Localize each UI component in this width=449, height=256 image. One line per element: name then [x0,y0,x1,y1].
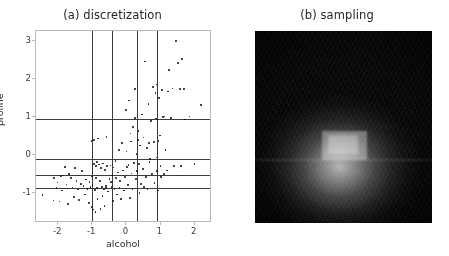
panel-a-title: (a) discretization [0,8,225,22]
scatter-point [126,151,128,153]
scatter-point [140,183,142,185]
scatter-point [143,137,145,139]
scatter-point [103,189,105,191]
scatter-point [189,116,191,118]
scatter-point [133,162,135,164]
scatter-point [120,198,122,200]
scatter-point [130,133,132,135]
scatter-point [112,200,114,202]
scatter-point [100,208,102,210]
scatter-point [137,139,139,141]
scatter-point [158,97,160,99]
scatter-point [42,194,44,196]
scatter-point [96,187,98,189]
scatter-point [81,170,83,172]
scatter-point [99,180,101,182]
scatter-point [154,182,156,184]
figure-canvas: (a) discretization -2-1012 -10123 alcoho… [0,0,449,256]
scatter-point [126,166,128,168]
panel-a-axes [35,30,211,222]
panel-b-sampling: (b) sampling [225,0,449,256]
panel-a-ylabel: proline [0,93,5,126]
scatter-point [141,114,143,116]
scatter-point [113,167,115,169]
scatter-point [158,140,160,142]
scatter-point [77,189,79,191]
scatter-point [129,197,131,199]
scatter-point [53,177,55,179]
scatter-point [85,179,87,181]
x-tick [91,222,92,225]
scatter-point [106,136,108,138]
scatter-point [177,62,179,64]
scatter-point [128,164,130,166]
discretization-vline-1 [112,31,113,221]
scatter-point [146,147,148,149]
x-tick-label: -1 [87,226,95,236]
scatter-point [149,161,151,163]
scatter-point [159,135,161,137]
scatter-point [170,117,172,119]
scatter-point [161,89,163,91]
scatter-point [105,185,107,187]
y-tick-label: -1 [23,187,31,197]
scatter-point [124,176,126,178]
y-tick-label: 2 [26,73,31,83]
scatter-point [114,189,116,191]
scatter-point [84,194,86,196]
scatter-point [64,166,66,168]
scatter-point [97,138,99,140]
y-tick-label: 3 [26,35,31,45]
y-tick [32,40,35,41]
scatter-point [67,203,69,205]
scatter-point [179,88,181,90]
scatter-point [97,198,99,200]
scatter-point [107,191,109,193]
image-vignette [255,31,432,223]
scatter-point [138,163,140,165]
scatter-point [134,88,136,90]
scatter-point [53,200,55,202]
scatter-point [94,189,96,191]
panel-a-xlabel: alcohol [35,238,211,249]
scatter-point [167,91,169,93]
x-tick [125,222,126,225]
scatter-point [142,168,144,170]
x-tick [194,222,195,225]
x-tick-label: -2 [53,226,61,236]
scatter-point [61,190,63,192]
x-tick-label: 2 [191,226,196,236]
scatter-point [122,170,124,172]
y-tick-label: 0 [26,149,31,159]
scatter-point [183,88,185,90]
y-tick-label: 1 [26,111,31,121]
scatter-point [128,100,130,102]
scatter-point [180,165,182,167]
scatter-point [130,141,132,143]
scatter-point [59,201,61,203]
y-tick [32,116,35,117]
discretization-hline-3 [36,188,210,189]
scatter-point [150,120,152,122]
panel-b-density-image [255,31,432,223]
panel-a-discretization: (a) discretization -2-1012 -10123 alcoho… [0,0,225,256]
scatter-point [145,176,147,178]
scatter-point [101,186,103,188]
scatter-point [104,205,106,207]
scatter-point [95,165,97,167]
scatter-point [119,180,121,182]
scatter-point [138,130,140,132]
scatter-point [132,189,134,191]
scatter-point [136,170,138,172]
scatter-point [109,178,111,180]
scatter-point [132,126,134,128]
scatter-point [73,196,75,198]
scatter-point [139,192,141,194]
panel-a-y-tick-group: -10123 [0,30,35,222]
scatter-point [148,103,150,105]
y-tick [32,78,35,79]
scatter-point [172,88,174,90]
scatter-point [115,177,117,179]
scatter-point [117,172,119,174]
scatter-point [66,184,68,186]
